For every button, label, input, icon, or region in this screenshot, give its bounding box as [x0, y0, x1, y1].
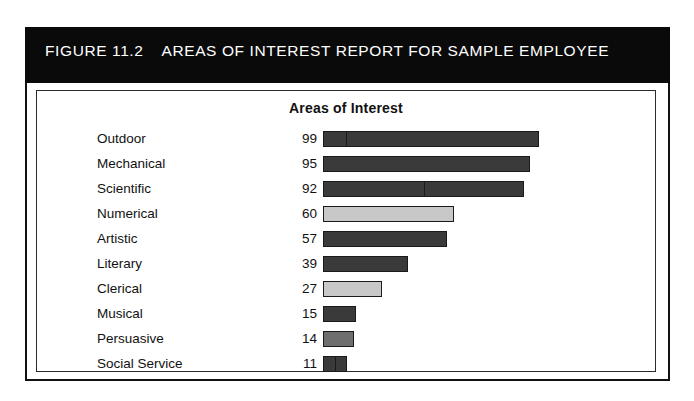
bar	[323, 306, 356, 322]
figure-caption: FIGURE 11.2AREAS OF INTEREST REPORT FOR …	[45, 42, 609, 60]
bar-category-label: Artistic	[97, 231, 287, 246]
bar	[323, 356, 347, 372]
bar-track	[323, 231, 541, 247]
bar-segment-divider	[346, 132, 347, 146]
bar-row: Numerical60	[37, 204, 655, 229]
bar-track	[323, 181, 541, 197]
figure-title: AREAS OF INTEREST REPORT FOR SAMPLE EMPL…	[161, 42, 609, 59]
bar-category-label: Mechanical	[97, 156, 287, 171]
bar-value-label: 39	[287, 256, 317, 271]
figure-root: FIGURE 11.2AREAS OF INTEREST REPORT FOR …	[0, 0, 694, 401]
bar-row: Literary39	[37, 254, 655, 279]
bar	[323, 156, 530, 172]
bar-value-label: 57	[287, 231, 317, 246]
figure-caption-band: FIGURE 11.2AREAS OF INTEREST REPORT FOR …	[25, 27, 670, 83]
bar-category-label: Literary	[97, 256, 287, 271]
bar-value-label: 95	[287, 156, 317, 171]
bar-row: Social Service11	[37, 354, 655, 379]
bar-row: Outdoor99	[37, 129, 655, 154]
bar-category-label: Clerical	[97, 281, 287, 296]
bar-track	[323, 256, 541, 272]
bar-category-label: Scientific	[97, 181, 287, 196]
bar	[323, 231, 447, 247]
bar	[323, 331, 354, 347]
bar-value-label: 60	[287, 206, 317, 221]
bar-value-label: 11	[287, 356, 317, 371]
bar-category-label: Persuasive	[97, 331, 287, 346]
bar	[323, 281, 382, 297]
bar-track	[323, 131, 541, 147]
bar-row: Musical15	[37, 304, 655, 329]
bar-segment-divider	[424, 182, 425, 196]
figure-number: FIGURE 11.2	[45, 42, 143, 59]
bar-value-label: 99	[287, 131, 317, 146]
bar-track	[323, 156, 541, 172]
bar	[323, 181, 524, 197]
bar-value-label: 14	[287, 331, 317, 346]
bar-track	[323, 206, 541, 222]
bar-track	[323, 331, 541, 347]
bar	[323, 256, 408, 272]
chart-plot-area: Outdoor99Mechanical95Scientific92Numeric…	[37, 129, 655, 379]
bar-row: Clerical27	[37, 279, 655, 304]
bar-row: Artistic57	[37, 229, 655, 254]
bar-category-label: Numerical	[97, 206, 287, 221]
chart-title: Areas of Interest	[37, 100, 655, 116]
bar-row: Mechanical95	[37, 154, 655, 179]
bar	[323, 206, 454, 222]
bar-segment-divider	[335, 357, 336, 371]
bar-value-label: 92	[287, 181, 317, 196]
bar-row: Persuasive14	[37, 329, 655, 354]
bar-row: Scientific92	[37, 179, 655, 204]
bar-category-label: Social Service	[97, 356, 287, 371]
bar	[323, 131, 539, 147]
bar-category-label: Musical	[97, 306, 287, 321]
bar-value-label: 15	[287, 306, 317, 321]
chart-plate: Areas of Interest Outdoor99Mechanical95S…	[36, 90, 656, 372]
bar-category-label: Outdoor	[97, 131, 287, 146]
bar-track	[323, 356, 541, 372]
bar-track	[323, 281, 541, 297]
bar-track	[323, 306, 541, 322]
bar-value-label: 27	[287, 281, 317, 296]
